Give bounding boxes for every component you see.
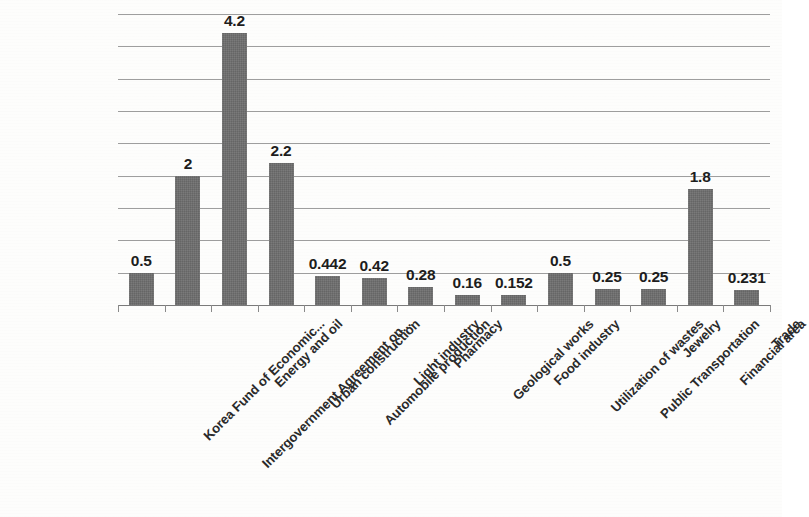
bar (455, 295, 480, 305)
data-label: 0.5 (131, 253, 152, 269)
x-axis-tick (351, 305, 352, 312)
bar (175, 176, 200, 305)
data-label: 0.42 (359, 258, 388, 274)
data-label: 1.8 (690, 169, 711, 185)
data-label: 0.28 (406, 267, 435, 283)
data-label: 0.25 (639, 269, 668, 285)
x-axis-tick (723, 305, 724, 312)
bar (269, 163, 294, 305)
gridline (118, 46, 770, 47)
gridline (118, 273, 770, 274)
x-axis-tick (397, 305, 398, 312)
gridline (118, 208, 770, 209)
x-axis-tick (118, 305, 119, 312)
data-label: 0.152 (495, 275, 533, 291)
data-label: 0.231 (728, 270, 766, 286)
bar (548, 273, 573, 305)
x-axis-tick (537, 305, 538, 312)
plot-area (118, 14, 770, 305)
bar (641, 289, 666, 305)
data-label: 0.442 (309, 256, 347, 272)
bar (501, 295, 526, 305)
bar (688, 189, 713, 305)
bar (362, 278, 387, 305)
bar (222, 33, 247, 305)
x-axis-tick (165, 305, 166, 312)
gridline (118, 111, 770, 112)
x-axis-tick (258, 305, 259, 312)
data-label: 0.25 (592, 269, 621, 285)
bar (408, 287, 433, 305)
x-axis-tick (630, 305, 631, 312)
bar (129, 273, 154, 305)
gridline (118, 176, 770, 177)
x-axis-tick (211, 305, 212, 312)
bar (734, 290, 759, 305)
gridline (118, 14, 770, 15)
x-axis-tick (677, 305, 678, 312)
data-label: 0.16 (453, 275, 482, 291)
gridline (118, 143, 770, 144)
x-axis-tick (444, 305, 445, 312)
data-label: 2 (184, 156, 192, 172)
category-label: Utilization of wastes (609, 317, 706, 414)
data-label: 2.2 (271, 143, 292, 159)
x-axis-tick (584, 305, 585, 312)
bar (315, 276, 340, 305)
x-axis-tick (491, 305, 492, 312)
data-label: 4.2 (224, 13, 245, 29)
gridline (118, 240, 770, 241)
gridline (118, 79, 770, 80)
x-axis-tick (304, 305, 305, 312)
x-axis-tick (770, 305, 771, 312)
bar (595, 289, 620, 305)
data-label: 0.5 (550, 253, 571, 269)
